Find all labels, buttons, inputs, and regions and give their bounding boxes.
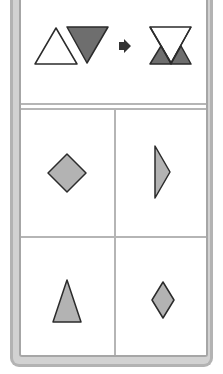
arrow-right-icon — [119, 39, 131, 53]
question-panel — [35, 27, 191, 64]
option-tall-triangle-icon[interactable] — [53, 280, 81, 322]
option-narrow-diamond-icon[interactable] — [152, 282, 174, 318]
hourglass-result-icon — [150, 27, 191, 64]
option-narrow-triangle-icon[interactable] — [155, 146, 170, 198]
option-diamond-icon[interactable] — [48, 154, 86, 192]
